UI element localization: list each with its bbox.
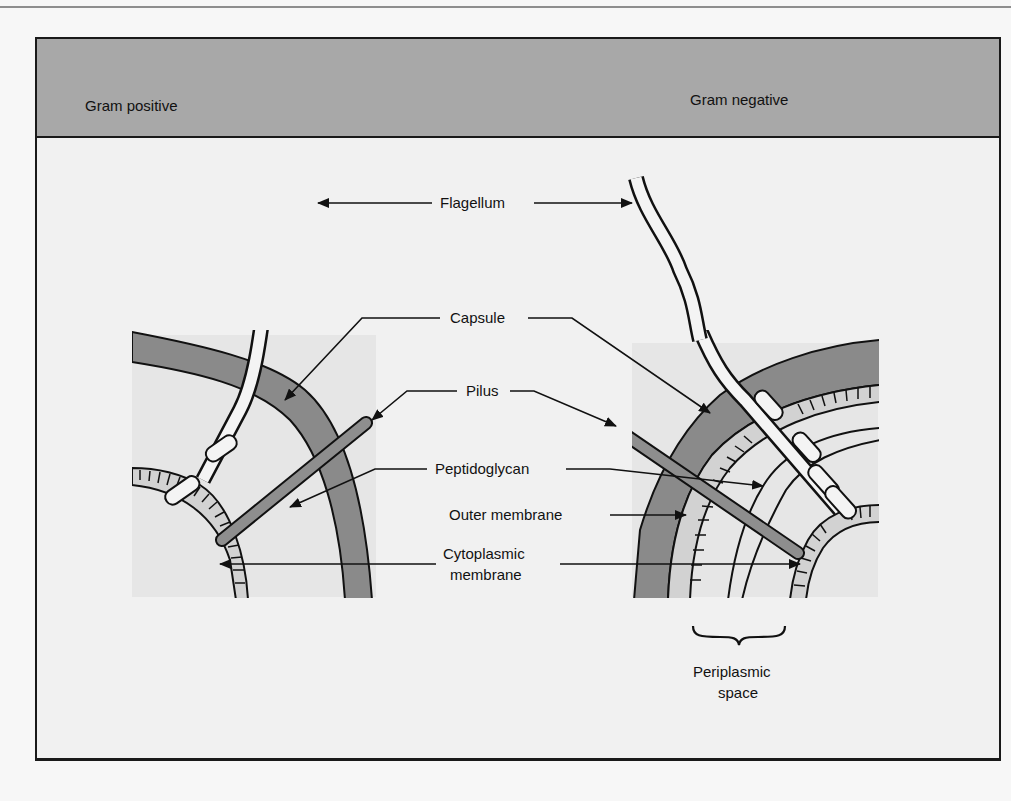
label-flagellum: Flagellum bbox=[318, 194, 632, 211]
svg-text:Flagellum: Flagellum bbox=[440, 194, 505, 211]
periplasmic-brace bbox=[693, 626, 785, 645]
svg-text:space: space bbox=[718, 684, 758, 701]
label-periplasmic-space: Periplasmic space bbox=[693, 626, 785, 701]
svg-text:Periplasmic: Periplasmic bbox=[693, 663, 771, 680]
svg-text:Outer membrane: Outer membrane bbox=[449, 506, 562, 523]
cell-wall-diagram: Flagellum Capsule Pilus Peptidoglycan Ou… bbox=[0, 0, 1011, 801]
svg-text:Peptidoglycan: Peptidoglycan bbox=[435, 460, 529, 477]
svg-text:Capsule: Capsule bbox=[450, 309, 505, 326]
gram-negative-flagellum bbox=[636, 178, 700, 340]
label-pilus: Pilus bbox=[372, 382, 616, 426]
gram-positive-panel bbox=[132, 170, 376, 600]
svg-text:membrane: membrane bbox=[450, 566, 522, 583]
svg-text:Pilus: Pilus bbox=[466, 382, 499, 399]
gram-negative-panel bbox=[624, 178, 880, 600]
svg-text:Cytoplasmic: Cytoplasmic bbox=[443, 545, 525, 562]
